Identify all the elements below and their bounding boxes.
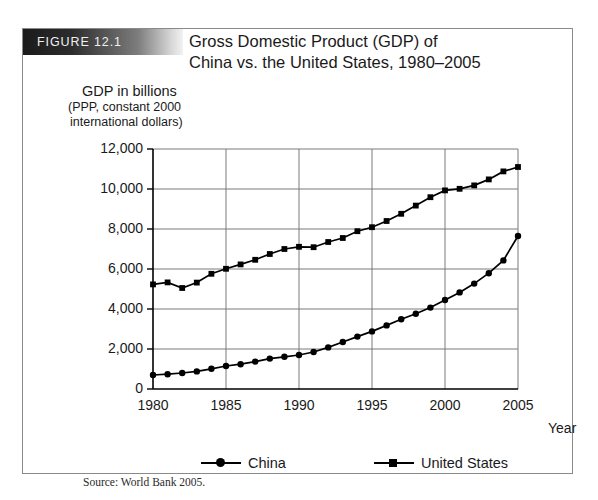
gridlines [153,149,518,389]
x-tick-label: 2000 [415,397,475,413]
figure-container: FIGURE 12.1 Gross Domestic Product (GDP)… [22,28,573,474]
source-note: Source: World Bank 2005. [83,476,205,488]
legend-label-china: China [248,455,286,471]
y-tick-label: 2,000 [81,340,143,356]
y-tick-label: 8,000 [81,220,143,236]
x-axis-label: Year [548,420,576,436]
y-tick-label: 4,000 [81,300,143,316]
x-tick-label: 2005 [488,397,548,413]
y-tick-label: 10,000 [81,180,143,196]
x-tick-label: 1985 [196,397,256,413]
y-tick-label: 6,000 [81,260,143,276]
tick-marks [147,149,153,389]
legend-marker-square-icon [374,456,414,470]
x-tick-label: 1995 [342,397,402,413]
y-tick-label: 12,000 [81,140,143,156]
legend-marker-circle-icon [201,456,241,470]
legend-label-united-states: United States [421,455,508,471]
x-tick-label: 1990 [269,397,329,413]
chart-legend: China United States [201,453,531,473]
legend-item-united-states: United States [374,453,508,473]
series-line-china [150,233,521,378]
series-line-united-states [150,164,521,291]
x-tick-label: 1980 [123,397,183,413]
y-tick-label: 0 [81,380,143,396]
legend-item-china: China [201,453,286,473]
